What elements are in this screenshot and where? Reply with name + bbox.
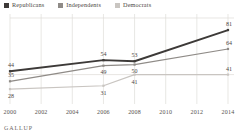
data-label-independents-2014: 64	[226, 40, 232, 46]
data-label-republicans-2014: 81	[226, 21, 232, 27]
x-axis: 20002002200420062008201020122014	[0, 109, 244, 121]
data-point-republicans-2008	[133, 60, 135, 62]
data-point-democrats-2006	[102, 85, 104, 87]
legend-label-republicans: Republicans	[12, 2, 44, 8]
chart-legend: Republicans Independents Democrats	[4, 2, 151, 8]
x-tick-2008: 2008	[128, 109, 141, 115]
data-point-independents-2006	[102, 65, 104, 67]
legend-label-democrats: Democrats	[123, 2, 151, 8]
series-layer	[9, 29, 229, 90]
gallup-brand: GALLUP	[4, 125, 33, 131]
plot-area: 445453813549506428314141	[0, 12, 244, 108]
data-label-democrats-2006: 31	[100, 90, 106, 96]
data-point-democrats-2014	[227, 74, 229, 76]
gridlines	[10, 14, 234, 104]
gallup-line-chart: Republicans Independents Democrats 44545…	[0, 0, 244, 139]
x-tick-2006: 2006	[97, 109, 110, 115]
data-label-independents-2006: 49	[100, 69, 106, 75]
legend-swatch-democrats	[115, 3, 120, 8]
legend-swatch-independents	[58, 3, 63, 8]
plot-svg: 445453813549506428314141	[0, 12, 244, 108]
x-tick-2004: 2004	[66, 109, 79, 115]
data-point-republicans-2014	[227, 29, 229, 31]
data-point-independents-2008	[133, 63, 135, 65]
series-line-democrats	[10, 75, 228, 89]
legend-label-independents: Independents	[66, 2, 101, 8]
data-label-democrats-2000: 28	[8, 93, 14, 99]
data-point-independents-2014	[227, 48, 229, 50]
data-label-democrats-2014: 41	[226, 66, 232, 72]
data-point-democrats-2000	[9, 88, 11, 90]
data-point-independents-2000	[9, 80, 11, 82]
x-tick-2000: 2000	[4, 109, 17, 115]
data-label-independents-2000: 35	[8, 72, 14, 78]
legend-item-republicans[interactable]: Republicans	[4, 2, 44, 8]
data-label-democrats-2008: 41	[132, 79, 138, 85]
x-tick-2002: 2002	[35, 109, 48, 115]
x-tick-2012: 2012	[190, 109, 203, 115]
series-line-independents	[10, 49, 228, 81]
legend-swatch-republicans	[4, 3, 9, 8]
legend-item-democrats[interactable]: Democrats	[115, 2, 151, 8]
data-label-republicans-2006: 54	[100, 51, 106, 57]
data-point-democrats-2008	[133, 74, 135, 76]
data-label-republicans-2000: 44	[8, 62, 14, 68]
x-tick-2014: 2014	[222, 109, 235, 115]
legend-item-independents[interactable]: Independents	[58, 2, 101, 8]
data-label-independents-2008: 50	[132, 68, 138, 74]
x-tick-2010: 2010	[159, 109, 172, 115]
data-label-republicans-2008: 53	[132, 52, 138, 58]
data-point-republicans-2006	[102, 59, 104, 61]
